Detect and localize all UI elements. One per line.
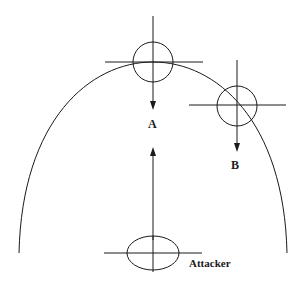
label-point-a: A: [148, 118, 157, 130]
attacker-crosshair-icon: [104, 236, 202, 272]
attack-trajectory-diagram: A B Attacker: [0, 0, 306, 287]
label-attacker: Attacker: [189, 258, 231, 269]
label-point-b: B: [231, 159, 239, 171]
arrow-down-icon: [234, 143, 240, 152]
arrow-down-icon: [150, 101, 156, 110]
attacker-arrow-up-icon: [150, 147, 156, 240]
target-b-crosshair-icon: [189, 60, 286, 152]
target-a-crosshair-icon: [105, 16, 203, 110]
